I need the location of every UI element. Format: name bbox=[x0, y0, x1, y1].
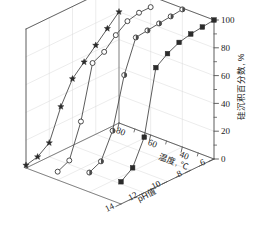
y-axis-tick-label: 80 bbox=[115, 125, 127, 138]
series-40-point-6 bbox=[110, 128, 115, 133]
z-axis-tick-label: 20 bbox=[221, 126, 231, 136]
series-40-point-8 bbox=[87, 170, 92, 175]
chart-3d-silica-deposition: 020406080100硅沉积百分数, %68101214pH值806040温度… bbox=[0, 0, 274, 233]
series-80-point-5 bbox=[58, 103, 64, 109]
series-60-point-7 bbox=[67, 158, 72, 163]
series-60-point-2 bbox=[125, 19, 130, 24]
y-axis-tick-label: 60 bbox=[147, 137, 159, 150]
series-60-point-1 bbox=[137, 10, 142, 15]
series-40-point-5 bbox=[122, 73, 127, 78]
x-axis-tick-major bbox=[116, 204, 121, 207]
x-axis-title: pH值 bbox=[136, 186, 158, 204]
series-40-point-0 bbox=[180, 7, 185, 12]
series-60-point-3 bbox=[113, 33, 118, 38]
y-axis-tick-minor bbox=[197, 153, 198, 156]
series-40-point-4 bbox=[133, 35, 138, 40]
series-20-point-7 bbox=[130, 165, 135, 170]
series-60-point-5 bbox=[90, 61, 95, 66]
axis-spine-floor-far-left bbox=[26, 168, 121, 204]
x-axis-tick-major bbox=[162, 182, 167, 185]
grid-line-right-horizontal bbox=[119, 67, 214, 103]
series-40-point-1 bbox=[168, 14, 173, 19]
z-axis-tick-label: 40 bbox=[221, 99, 231, 109]
series-40-point-7 bbox=[98, 159, 103, 164]
series-60-point-8 bbox=[55, 169, 60, 174]
x-axis-tick-label: 14 bbox=[103, 201, 116, 214]
series-60-point-6 bbox=[78, 119, 83, 124]
z-axis-title: 硅沉积百分数, % bbox=[236, 53, 246, 120]
series-40-point-3 bbox=[145, 28, 150, 33]
series-20-point-5 bbox=[154, 65, 159, 70]
series-20-point-2 bbox=[188, 32, 193, 37]
series-20-point-6 bbox=[142, 135, 147, 140]
grid-line-floor-x bbox=[73, 146, 168, 182]
series-20-point-1 bbox=[200, 25, 205, 30]
y-axis-tick-minor bbox=[134, 129, 135, 132]
series-line-60 bbox=[58, 7, 151, 172]
z-axis-tick-label: 80 bbox=[221, 43, 231, 53]
series-20-point-8 bbox=[119, 179, 124, 184]
z-axis-tick-label: 100 bbox=[221, 15, 235, 25]
series-20-point-3 bbox=[177, 40, 182, 45]
x-axis-tick-major bbox=[209, 159, 214, 162]
series-60-point-4 bbox=[102, 49, 107, 54]
z-axis-tick-label: 60 bbox=[221, 71, 231, 81]
series-60-point-0 bbox=[148, 5, 153, 10]
z-axis-tick-label: 0 bbox=[221, 154, 226, 164]
series-20-point-4 bbox=[165, 51, 170, 56]
grid-line-right-horizontal bbox=[119, 95, 214, 131]
y-axis-tick-minor bbox=[166, 141, 167, 144]
series-40-point-2 bbox=[157, 21, 162, 26]
grid-line-floor-x bbox=[49, 157, 144, 193]
chart-canvas: 020406080100硅沉积百分数, %68101214pH值806040温度… bbox=[0, 0, 274, 233]
series-20-point-0 bbox=[212, 18, 217, 23]
